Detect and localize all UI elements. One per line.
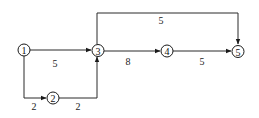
node-5: 5 [232, 46, 244, 58]
edge-label-2-3: 2 [76, 101, 81, 112]
edge-label-1-2: 2 [32, 101, 37, 112]
edge-label-3-5: 5 [159, 15, 164, 26]
node-3: 3 [92, 45, 104, 57]
node-2: 2 [47, 92, 59, 104]
edge-1-2 [24, 56, 46, 98]
edge-2-3 [59, 57, 97, 98]
network-diagram: 5 2 2 8 5 5 1 2 3 4 5 [0, 0, 259, 118]
node-1: 1 [18, 44, 30, 56]
edge-label-3-4: 8 [126, 56, 131, 67]
edge-3-5 [97, 13, 238, 44]
edge-label-4-5: 5 [200, 56, 205, 67]
node-3-label: 3 [96, 46, 101, 57]
node-4: 4 [161, 45, 173, 57]
node-5-label: 5 [236, 47, 241, 58]
edge-label-1-3: 5 [53, 58, 58, 69]
node-4-label: 4 [165, 46, 170, 57]
node-2-label: 2 [51, 93, 56, 104]
node-1-label: 1 [22, 45, 27, 56]
